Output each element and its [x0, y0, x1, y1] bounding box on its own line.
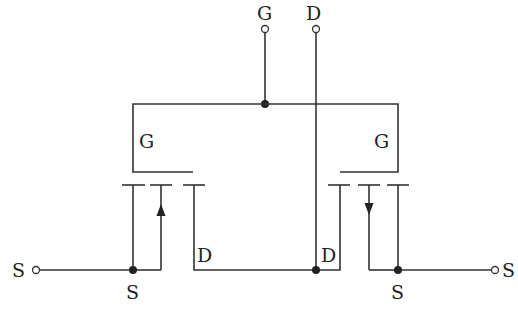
right-source-terminal-label: S [502, 259, 515, 281]
drain-junction-dot [312, 266, 320, 274]
left-drain-wire [194, 185, 316, 270]
circuit-diagram: G D G G D D S S S S [0, 0, 518, 318]
right-source-label: S [391, 281, 404, 303]
gate-terminal [262, 26, 269, 33]
drain-terminal [313, 26, 320, 33]
left-mosfet [122, 185, 316, 270]
gate-bus [133, 104, 398, 172]
left-source-junction-dot [129, 266, 137, 274]
gate-terminal-label: G [257, 2, 272, 24]
right-source-junction-dot [394, 266, 402, 274]
drain-terminal-label: D [306, 2, 321, 24]
left-gate-label: G [139, 130, 154, 152]
arrow-down-icon [365, 203, 374, 215]
right-source-terminal [492, 267, 499, 274]
arrow-up-icon [157, 204, 166, 216]
left-source-terminal [33, 267, 40, 274]
right-drain-label: D [321, 244, 336, 266]
left-drain-label: D [197, 244, 212, 266]
left-source-label: S [126, 281, 139, 303]
left-source-terminal-label: S [12, 259, 25, 281]
right-gate-label: G [374, 130, 389, 152]
